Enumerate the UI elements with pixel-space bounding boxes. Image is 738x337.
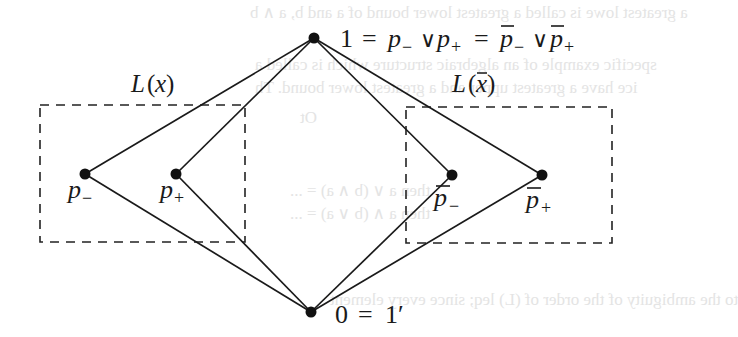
edge-top-p-minus [85, 38, 314, 174]
x-letter: x [475, 70, 487, 97]
label-p-minus-p: p [386, 24, 401, 53]
node-bottom [306, 307, 317, 318]
edge-top-pbar-minus [314, 38, 452, 175]
label-p-plus-p: p [435, 24, 450, 53]
label-p-minus: p − [66, 175, 92, 208]
label-pbar-plus-sub: + [564, 37, 574, 57]
label-pbar-plus: p + [524, 185, 551, 218]
top-node-label: 1 = p − ∨ p + = p − ∨ p + [340, 24, 574, 57]
edge-bottom-pbar-minus [311, 175, 452, 312]
group-label-L-xbar: L ( x ) [451, 70, 495, 98]
svg-text:+: + [541, 198, 551, 218]
label-eq-bottom: = [358, 300, 373, 329]
label-one-prime: 1′ [385, 300, 404, 329]
edge-bottom-pbar-plus [311, 175, 542, 312]
node-pbar-minus [447, 170, 458, 181]
svg-text:p: p [66, 175, 81, 204]
label-pbar-minus-p: p [498, 24, 513, 53]
label-or-1: ∨ [420, 27, 436, 52]
bottom-node-label: 0 = 1′ [335, 300, 404, 329]
svg-text:p: p [432, 183, 447, 212]
label-one: 1 [340, 24, 353, 53]
label-pbar-plus-p: p [548, 24, 563, 53]
L-letter: L [130, 70, 145, 97]
label-p-plus-sub: + [451, 37, 461, 57]
close-paren: ) [487, 70, 495, 98]
label-p-plus: p + [158, 175, 184, 208]
group-box-L-x [40, 105, 245, 242]
label-p-minus-sub: − [402, 37, 412, 57]
svg-text:−: − [82, 188, 92, 208]
edge-top-p-plus [176, 38, 314, 174]
x-letter: x [154, 70, 166, 97]
node-pbar-plus [537, 170, 548, 181]
svg-text:+: + [174, 188, 184, 208]
label-pbar-minus-sub: − [514, 37, 524, 57]
svg-text:p: p [158, 175, 173, 204]
close-paren: ) [166, 70, 174, 98]
label-eq-1: = [362, 24, 377, 53]
label-eq-2: = [474, 24, 489, 53]
group-label-L-x: L ( x ) [130, 70, 174, 98]
node-top [309, 33, 320, 44]
edge-bottom-p-minus [85, 174, 311, 312]
label-pbar-minus: p − [432, 183, 459, 216]
edge-bottom-p-plus [176, 174, 311, 312]
svg-text:p: p [524, 185, 539, 214]
L-letter: L [451, 70, 466, 97]
group-box-L-xbar [406, 107, 612, 243]
svg-text:−: − [449, 196, 459, 216]
node-p-minus [80, 169, 91, 180]
label-zero: 0 [335, 300, 348, 329]
label-or-2: ∨ [532, 27, 548, 52]
